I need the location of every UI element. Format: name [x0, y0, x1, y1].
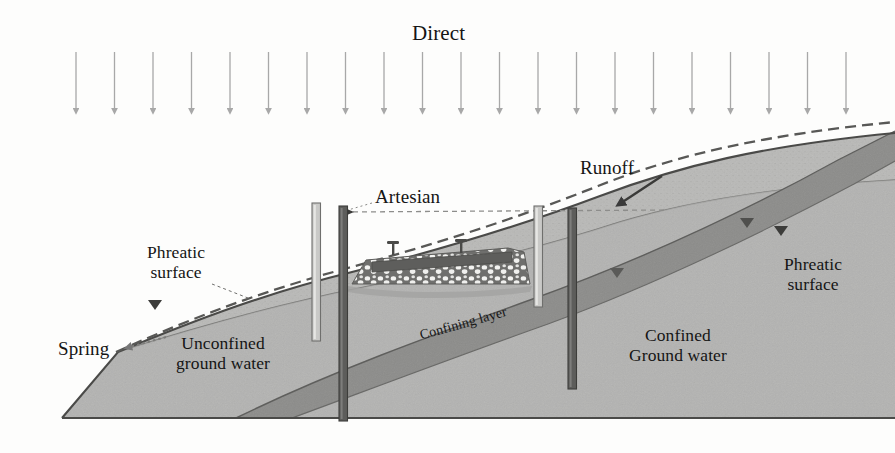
- label-confined-ground-water: Confined Ground water: [629, 326, 727, 365]
- water-table-triangle: [148, 300, 162, 310]
- well-confined-shallow: [534, 206, 543, 307]
- label-spring: Spring: [58, 338, 109, 359]
- label-phreatic-surface-left: Phreatic surface: [147, 243, 205, 282]
- phreatic-leader-line: [212, 284, 248, 298]
- diagram-canvas: Direct Runoff Artesian Phreatic surface …: [0, 0, 895, 453]
- precipitation-arrow-group: [76, 52, 846, 112]
- label-runoff: Runoff: [580, 157, 634, 178]
- artesian-leader-line: [348, 203, 372, 210]
- well-unconfined-deep: [339, 206, 348, 421]
- label-direct: Direct: [412, 22, 465, 46]
- cross-section-svg: [0, 0, 895, 453]
- artesian-overflow-nub: [347, 209, 354, 215]
- label-unconfined-ground-water: Unconfined ground water: [176, 334, 270, 373]
- label-phreatic-surface-right: Phreatic surface: [784, 255, 842, 294]
- dam-post: [387, 241, 399, 255]
- well-unconfined-shallow: [312, 203, 321, 341]
- well-artesian-deep: [568, 208, 577, 389]
- label-artesian: Artesian: [375, 186, 440, 207]
